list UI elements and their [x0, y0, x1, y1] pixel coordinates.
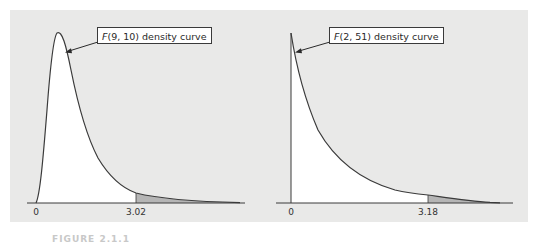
right-label-suffix: density curve	[371, 31, 439, 42]
left-label-params: (9, 10)	[107, 31, 139, 42]
right-body-area	[291, 33, 428, 203]
left-body-area	[36, 33, 136, 203]
chart-left	[27, 33, 245, 203]
right-callout-arrow-line	[299, 42, 330, 51]
chart-right	[276, 33, 513, 203]
left-curve-label: F(9, 10) density curve	[97, 27, 212, 44]
right-label-params: (2, 51)	[339, 31, 371, 42]
left-callout-arrow-line	[69, 42, 98, 51]
left-label-suffix: density curve	[139, 31, 207, 42]
right-arrowhead-icon	[295, 48, 302, 53]
right-tick-critical: 3.18	[418, 207, 438, 217]
left-tick-zero: 0	[33, 207, 39, 217]
figure-caption: FIGURE 2.1.1	[52, 234, 130, 242]
f-density-charts	[0, 0, 539, 242]
right-curve-label: F(2, 51) density curve	[329, 27, 444, 44]
left-tick-critical: 3.02	[126, 207, 146, 217]
right-tick-zero: 0	[288, 207, 294, 217]
left-tail-shade	[136, 193, 240, 203]
